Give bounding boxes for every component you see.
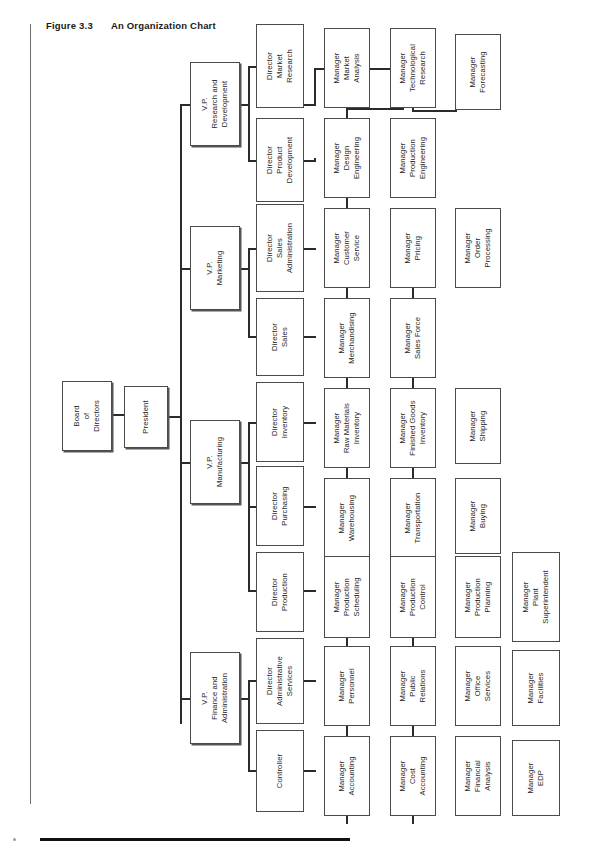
org-connector <box>412 288 414 298</box>
org-node-vp_rd[interactable]: V.P. Research and Development <box>190 62 240 146</box>
org-node-m_pricing[interactable]: Manager Pricing <box>390 208 436 288</box>
org-connector <box>346 638 348 646</box>
org-connector <box>248 590 256 592</box>
org-node-m_prodplan[interactable]: Manager Production Planning <box>455 556 501 638</box>
org-node-label: Manager EDP <box>526 762 546 793</box>
org-connector <box>346 288 348 298</box>
org-node-label: Manager Cost Accounting <box>398 756 428 795</box>
org-node-m_warehouse[interactable]: Manager Warehousing <box>324 478 370 558</box>
org-connector <box>304 770 316 772</box>
org-node-label: Manager Public Relations <box>398 669 428 702</box>
org-node-m_desgeng[interactable]: Manager Design Engineering <box>324 118 370 198</box>
org-node-m_facil[interactable]: Manager Facilities <box>512 650 560 726</box>
org-node-label: President <box>141 400 151 433</box>
org-connector <box>346 726 348 736</box>
org-connector <box>168 416 180 418</box>
org-node-d_proddev[interactable]: Director Product Development <box>256 118 304 202</box>
org-node-label: Manager Shipping <box>468 410 488 441</box>
org-node-label: Manager Personnel <box>337 668 357 704</box>
org-node-vp_fin[interactable]: V.P. Finance and Administration <box>190 652 240 744</box>
org-node-label: Manager Production Planning <box>463 578 493 616</box>
org-node-m_prodctrl[interactable]: Manager Production Control <box>390 556 436 638</box>
org-node-m_salesforce[interactable]: Manager Sales Force <box>390 298 436 378</box>
org-connector <box>304 680 316 682</box>
org-node-label: V.P. Manufacturing <box>205 437 225 487</box>
org-node-label: Manager Production Scheduling <box>332 577 362 616</box>
org-node-m_orderproc[interactable]: Manager Order Processing <box>455 208 501 288</box>
org-connector <box>248 248 256 250</box>
org-node-label: Manager Office Services <box>463 670 493 701</box>
org-node-d_ctrl[interactable]: Controller <box>256 730 304 812</box>
org-node-d_admsvc[interactable]: Director Administrative Services <box>256 638 304 724</box>
org-node-label: Director Sales <box>270 323 290 351</box>
org-node-d_inv[interactable]: Director Inventory <box>256 382 304 462</box>
org-connector <box>248 680 256 682</box>
org-connector <box>314 158 316 160</box>
org-node-label: Manager Merchandising <box>337 312 357 363</box>
org-connector <box>304 160 316 162</box>
org-node-m_prodsched[interactable]: Manager Production Scheduling <box>324 556 370 638</box>
org-connector <box>180 104 182 724</box>
org-node-label: Director Sales Administration <box>265 223 295 273</box>
org-node-m_rawmat[interactable]: Manager Raw Materials Inventory <box>324 388 370 468</box>
org-connector <box>346 378 348 388</box>
org-connector <box>248 66 256 68</box>
org-node-label: Manager Buying <box>468 500 488 531</box>
org-node-m_plantsup[interactable]: Manager Plant Superintendent <box>512 552 560 642</box>
org-node-m_custsvc[interactable]: Manager Customer Service <box>324 208 370 288</box>
org-connector <box>248 160 256 162</box>
org-node-m_acct[interactable]: Manager Accounting <box>324 736 370 816</box>
org-node-label: Manager Technological Research <box>398 44 428 92</box>
org-connector <box>346 468 348 478</box>
org-connector <box>112 414 124 416</box>
org-node-vp_mkt[interactable]: V.P. Marketing <box>190 226 240 310</box>
org-node-m_mktanal[interactable]: Manager Market Analysis <box>324 28 370 108</box>
org-node-d_sales[interactable]: Director Sales <box>256 298 304 376</box>
org-node-m_personnel[interactable]: Manager Personnel <box>324 646 370 726</box>
org-node-m_techres[interactable]: Manager Technological Research <box>390 28 436 108</box>
org-node-m_shipping[interactable]: Manager Shipping <box>455 388 501 464</box>
org-node-d_mktres[interactable]: Director Market Research <box>256 24 304 108</box>
org-connector <box>304 590 316 592</box>
org-connector <box>248 506 256 508</box>
org-connector <box>346 198 348 208</box>
org-node-label: Manager Accounting <box>337 756 357 795</box>
org-node-label: Director Inventory <box>270 406 290 439</box>
org-node-label: Manager Production Control <box>398 578 428 616</box>
org-node-m_offsvc[interactable]: Manager Office Services <box>455 646 501 726</box>
org-node-m_edp[interactable]: Manager EDP <box>512 740 560 816</box>
org-node-label: Controller <box>275 754 285 788</box>
org-connector <box>346 816 348 824</box>
org-connector <box>248 770 256 772</box>
org-node-m_transport[interactable]: Manager Transportation <box>390 478 436 558</box>
org-node-d_purch[interactable]: Director Purchasing <box>256 466 304 546</box>
org-node-m_pubrel[interactable]: Manager Public Relations <box>390 646 436 726</box>
org-node-m_finanal[interactable]: Manager Financial Analysis <box>455 736 501 816</box>
org-node-label: Manager Transportation <box>403 493 423 544</box>
org-node-label: Manager Forecasting <box>468 51 488 92</box>
org-node-label: V.P. Research and Development <box>200 79 230 128</box>
org-connector <box>412 378 414 388</box>
org-node-m_buying[interactable]: Manager Buying <box>455 478 501 554</box>
org-connector <box>314 68 324 70</box>
org-node-label: Board of Directors <box>72 400 102 432</box>
org-connector <box>248 248 250 338</box>
org-connector <box>346 108 404 110</box>
org-node-m_costacct[interactable]: Manager Cost Accounting <box>390 736 436 816</box>
org-node-vp_mfg[interactable]: V.P. Manufacturing <box>190 420 240 504</box>
org-node-d_prod[interactable]: Director Production <box>256 552 304 632</box>
org-connector <box>412 468 414 478</box>
org-node-m_merch[interactable]: Manager Merchandising <box>324 298 370 378</box>
org-node-president[interactable]: President <box>124 386 168 448</box>
org-connector <box>180 104 190 106</box>
org-node-label: Manager Facilities <box>526 672 546 703</box>
org-node-board[interactable]: Board of Directors <box>62 381 112 451</box>
org-node-label: Manager Market Analysis <box>332 52 362 83</box>
org-node-m_prodeng[interactable]: Manager Production Engineering <box>390 118 436 198</box>
org-connector <box>304 248 316 250</box>
org-connector <box>304 506 316 508</box>
org-node-label: Manager Design Engineering <box>332 137 362 179</box>
org-node-m_forecast[interactable]: Manager Forecasting <box>455 34 501 110</box>
org-node-d_salesadm[interactable]: Director Sales Administration <box>256 204 304 292</box>
org-node-m_fingoods[interactable]: Manager Finished Goods Inventory <box>390 388 436 468</box>
